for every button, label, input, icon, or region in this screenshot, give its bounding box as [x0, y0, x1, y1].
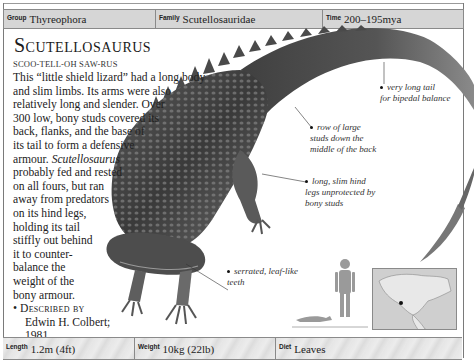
- annotation-tail: very long tail for bipedal balance: [380, 82, 451, 104]
- page-title: Scutellosaurus: [14, 35, 151, 55]
- time-cell: Time 200–195mya: [323, 10, 463, 28]
- annotation-teeth: serrated, leaf-like teeth: [227, 266, 298, 288]
- length-value: 1.2m (4ft): [31, 343, 76, 355]
- bullet-dot-icon: [310, 126, 313, 129]
- described-by-label: Described by: [20, 302, 85, 315]
- family-label: Family: [159, 14, 180, 21]
- weight-value: 10kg (22lb): [163, 343, 215, 355]
- stats-footer: Length 1.2m (4ft) Weight 10kg (22lb) Die…: [3, 337, 462, 360]
- length-cell: Length 1.2m (4ft): [3, 338, 135, 359]
- time-value: 200–195mya: [344, 13, 401, 25]
- weight-cell: Weight 10kg (22lb): [135, 338, 276, 359]
- bullet-dot-icon: [380, 86, 383, 89]
- length-label: Length: [6, 343, 28, 350]
- weight-label: Weight: [138, 343, 160, 350]
- diet-cell: Diet Leaves: [276, 338, 462, 359]
- described-by-fact: • Described by: [13, 302, 205, 316]
- species-name-italic: Scutellosaurus: [52, 153, 120, 166]
- group-label: Group: [7, 14, 27, 21]
- bullet-dot-icon: [305, 180, 308, 183]
- locator-map: [372, 268, 457, 330]
- annotation-studs: row of large studs down the middle of th…: [310, 122, 376, 155]
- group-cell: Group Thyreophora: [4, 10, 156, 28]
- diet-value: Leaves: [294, 343, 325, 355]
- description-text: This “little shield lizard” had a long b…: [13, 71, 205, 356]
- pronunciation: SCOO-TELL-OH SAW-RUS: [13, 59, 118, 69]
- annotation-legs: long, slim hind legs unprotected by bony…: [305, 176, 375, 209]
- family-cell: Family Scutellosauridae: [156, 10, 323, 28]
- family-value: Scutellosauridae: [183, 13, 256, 25]
- group-value: Thyreophora: [30, 13, 87, 25]
- time-label: Time: [326, 14, 341, 21]
- diet-label: Diet: [279, 343, 291, 350]
- north-america-map-icon: [373, 269, 457, 330]
- info-header: Group Thyreophora Family Scutellosaurida…: [3, 9, 464, 29]
- bullet-dot-icon: [227, 270, 230, 273]
